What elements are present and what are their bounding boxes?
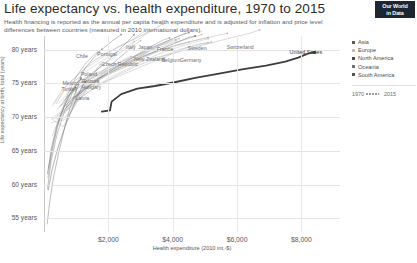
series-endpoint-dot[interactable] xyxy=(194,35,196,37)
legend-label: Oceania xyxy=(358,64,379,70)
country-label[interactable]: Portugal xyxy=(97,51,116,57)
y-axis-tick-label: 70 years xyxy=(0,113,37,120)
our-world-in-data-logo[interactable]: Our World in Data xyxy=(375,1,415,18)
x-axis-tick-label: $2,000 xyxy=(98,236,119,243)
legend-label: South America xyxy=(358,72,394,78)
y-axis-title: Life expectancy at birth, total (years) xyxy=(0,57,5,144)
series-endpoint-dot[interactable] xyxy=(201,34,203,36)
series-endpoint-dot[interactable] xyxy=(169,37,171,39)
legend-swatch-icon xyxy=(352,73,355,76)
country-label[interactable]: Hungary xyxy=(81,84,101,90)
x-axis-title: Health expenditure (2010 int.-$) xyxy=(153,245,232,251)
country-label[interactable]: Poland xyxy=(81,71,97,77)
legend-item[interactable]: North America xyxy=(352,54,416,62)
y-axis-tick-label: 60 years xyxy=(0,181,37,188)
series-endpoint-dot[interactable] xyxy=(120,34,122,36)
legend-item[interactable]: Europe xyxy=(352,46,416,54)
y-axis-tick-label: 80 years xyxy=(0,46,37,53)
plot-area: 55 years60 years65 years70 years75 years… xyxy=(44,36,340,232)
time-start-label: 1970 xyxy=(352,91,364,97)
country-label[interactable]: Germany xyxy=(180,57,201,63)
y-axis-tick-label: 65 years xyxy=(0,147,37,154)
legend-item[interactable]: South America xyxy=(352,71,416,79)
series-lines xyxy=(44,36,340,232)
series-endpoint-dot[interactable] xyxy=(207,42,209,44)
legend: AsiaEuropeNorth AmericaOceaniaSouth Amer… xyxy=(352,38,416,97)
y-axis-tick-label: 55 years xyxy=(0,214,37,221)
series-endpoint-dot[interactable] xyxy=(227,32,229,34)
x-axis-tick-label: $4,000 xyxy=(162,236,183,243)
series-endpoint-dot[interactable] xyxy=(210,41,212,43)
legend-item[interactable]: Asia xyxy=(352,38,416,46)
country-label[interactable]: United States xyxy=(290,49,323,55)
country-label[interactable]: Czech Republic xyxy=(102,61,139,67)
country-label[interactable]: Belgium xyxy=(162,57,181,63)
x-axis-tick-label: $6,000 xyxy=(227,236,248,243)
arrow-right-icon xyxy=(378,93,380,95)
x-gridline xyxy=(173,36,174,232)
y-axis-tick-label: 75 years xyxy=(0,79,37,86)
chart-title: Life expectancy vs. health expenditure, … xyxy=(4,1,376,16)
chart-header: Life expectancy vs. health expenditure, … xyxy=(4,1,376,33)
series-endpoint-dot[interactable] xyxy=(188,32,190,34)
chart-container: Life expectancy vs. health expenditure, … xyxy=(0,0,417,263)
time-progression-dots-icon xyxy=(366,93,382,95)
series-endpoint-dot[interactable] xyxy=(207,38,209,40)
legend-item[interactable]: Oceania xyxy=(352,63,416,71)
legend-swatch-icon xyxy=(352,41,355,44)
y-gridline xyxy=(44,185,340,186)
series-endpoint-dot[interactable] xyxy=(133,34,135,36)
series-endpoint-dot[interactable] xyxy=(140,40,142,42)
time-scale-legend: 19702015 xyxy=(352,85,416,97)
y-gridline xyxy=(44,117,340,118)
y-gridline xyxy=(44,151,340,152)
chart-subtitle: Health financing is reported as the annu… xyxy=(4,18,334,33)
country-label[interactable]: Sweden xyxy=(188,45,207,51)
legend-swatch-icon xyxy=(352,57,355,60)
x-axis-tick-label: $8,000 xyxy=(291,236,312,243)
series-endpoint-dot[interactable] xyxy=(151,30,153,32)
legend-label: North America xyxy=(358,55,393,61)
series-endpoint-dot[interactable] xyxy=(178,38,180,40)
country-label[interactable]: Chile xyxy=(76,53,88,59)
legend-swatch-icon xyxy=(352,49,355,52)
series-endpoint-dot[interactable] xyxy=(259,29,261,31)
logo-line-2: in Data xyxy=(386,10,403,16)
series-endpoint-dot[interactable] xyxy=(146,28,148,30)
legend-label: Asia xyxy=(358,39,369,45)
country-label[interactable]: Mexico xyxy=(62,80,79,86)
country-label[interactable]: Latvia xyxy=(75,95,89,101)
x-gridline xyxy=(237,36,238,232)
series-endpoint-dot[interactable] xyxy=(130,55,132,57)
series-endpoint-dot[interactable] xyxy=(162,23,164,25)
series-endpoint-dot[interactable] xyxy=(133,41,135,43)
country-label[interactable]: New Zealand xyxy=(134,56,165,62)
series-endpoint-dot[interactable] xyxy=(175,40,177,42)
country-label[interactable]: France xyxy=(157,46,173,52)
legend-swatch-icon xyxy=(352,65,355,68)
x-gridline xyxy=(301,36,302,232)
country-label[interactable]: Turkey xyxy=(62,86,78,92)
country-label[interactable]: Switzerland xyxy=(227,44,254,50)
legend-label: Europe xyxy=(358,47,376,53)
y-gridline xyxy=(44,218,340,219)
time-end-label: 2015 xyxy=(384,91,396,97)
country-label[interactable]: Italy xyxy=(126,44,136,50)
country-label[interactable]: Japan xyxy=(138,44,152,50)
